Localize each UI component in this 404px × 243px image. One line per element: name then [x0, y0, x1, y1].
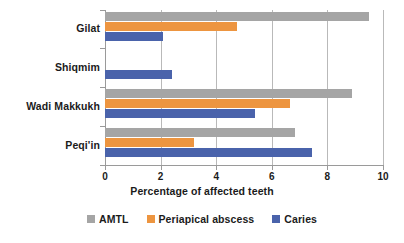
x-axis-title: Percentage of affected teeth [0, 185, 404, 197]
category-label-peqiin: Peqi'in [4, 139, 100, 151]
legend-swatch-periapical-abscess [147, 215, 155, 223]
category-label-gilat: Gilat [4, 22, 100, 34]
bar-wadi-makkukh-abscess [105, 99, 290, 108]
plot-area [105, 10, 383, 165]
value-tick-label-4: 4 [213, 171, 219, 182]
value-axis-line [105, 165, 384, 166]
bar-peqiin-amtl [105, 128, 295, 137]
bar-gilat-caries [105, 32, 163, 41]
legend-item-amtl: AMTL [87, 213, 129, 225]
legend-label-amtl: AMTL [99, 213, 129, 225]
bar-gilat-amtl [105, 12, 369, 21]
value-tick-0 [105, 166, 106, 170]
bar-wadi-makkukh-amtl [105, 89, 352, 98]
bar-gilat-abscess [105, 22, 237, 31]
category-label-shiqmim: Shiqmim [4, 61, 100, 73]
legend-item-caries: Caries [272, 213, 317, 225]
value-tick-label-10: 10 [377, 171, 388, 182]
value-tick-label-0: 0 [102, 171, 108, 182]
value-tick-10 [383, 166, 384, 170]
legend-item-periapical-abscess: Periapical abscess [147, 213, 255, 225]
bar-group-gilat [105, 10, 383, 48]
category-tick-1 [100, 48, 105, 49]
value-tick-label-2: 2 [158, 171, 164, 182]
value-tick-2 [161, 166, 162, 170]
category-tick-3 [100, 126, 105, 127]
category-label-wadi-makkukh: Wadi Makkukh [4, 100, 100, 112]
legend-swatch-caries [272, 215, 280, 223]
category-tick-2 [100, 87, 105, 88]
value-tick-8 [327, 166, 328, 170]
bar-chart: Gilat Shiqmim Wadi Makkukh Peqi'in 0 2 4… [0, 0, 404, 243]
category-axis-labels: Gilat Shiqmim Wadi Makkukh Peqi'in [0, 0, 100, 175]
bar-shiqmim-caries [105, 70, 172, 79]
value-tick-4 [216, 166, 217, 170]
value-tick-label-8: 8 [325, 171, 331, 182]
bar-group-shiqmim [105, 48, 383, 86]
bar-peqiin-abscess [105, 138, 194, 147]
chart-legend: AMTL Periapical abscess Caries [0, 213, 404, 225]
bar-group-wadi-makkukh [105, 87, 383, 125]
gridline-10 [383, 10, 384, 165]
category-tick-0 [100, 10, 105, 11]
bar-wadi-makkukh-caries [105, 109, 255, 118]
bar-peqiin-caries [105, 148, 312, 157]
legend-swatch-amtl [87, 215, 95, 223]
legend-label-periapical-abscess: Periapical abscess [159, 213, 255, 225]
value-tick-6 [272, 166, 273, 170]
bar-group-peqiin [105, 126, 383, 164]
legend-label-caries: Caries [284, 213, 317, 225]
value-tick-label-6: 6 [269, 171, 275, 182]
